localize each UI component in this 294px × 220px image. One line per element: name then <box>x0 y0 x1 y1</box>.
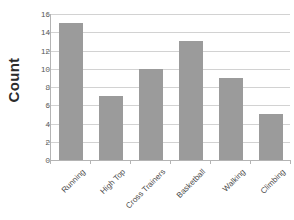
bar[interactable] <box>219 78 243 160</box>
plot-area <box>50 14 290 160</box>
x-tick-mark <box>170 160 171 164</box>
bar[interactable] <box>259 114 283 160</box>
x-tick-mark <box>90 160 91 164</box>
bar[interactable] <box>99 96 123 160</box>
y-tick-label: 0 <box>10 156 50 165</box>
x-tick-mark <box>130 160 131 164</box>
y-tick-label: 14 <box>10 28 50 37</box>
bars <box>51 14 290 160</box>
x-tick-mark <box>210 160 211 164</box>
bar[interactable] <box>179 41 203 160</box>
y-tick-label: 4 <box>10 119 50 128</box>
x-tick-mark <box>290 160 291 164</box>
x-tick-mark <box>250 160 251 164</box>
y-tick-label: 16 <box>10 10 50 19</box>
y-tick-label: 8 <box>10 83 50 92</box>
x-tick-mark <box>50 160 51 164</box>
y-tick-label: 2 <box>10 137 50 146</box>
bar[interactable] <box>139 69 163 160</box>
y-tick-label: 12 <box>10 46 50 55</box>
y-tick-label: 6 <box>10 101 50 110</box>
bar-chart: Count 0246810121416 RunningHigh TopCross… <box>0 0 294 220</box>
y-tick-label: 10 <box>10 64 50 73</box>
y-axis-ticks: 0246810121416 <box>0 14 50 160</box>
bar[interactable] <box>59 23 83 160</box>
